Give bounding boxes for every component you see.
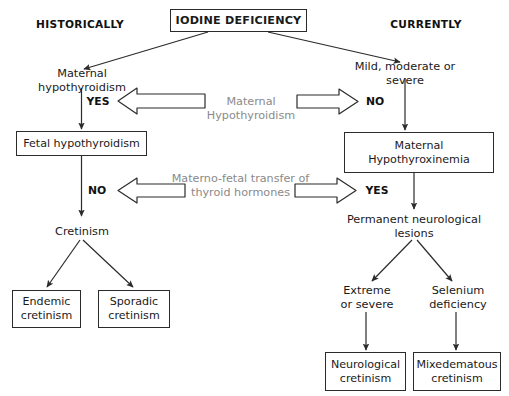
node-sporadic-cretinism[interactable]: Sporadic cretinism [98, 290, 170, 328]
selenium-deficiency-line-2: deficiency [429, 298, 487, 312]
middle-label-row1-line-2: Hypothyroidism [207, 109, 295, 123]
edge-cretinism-to-endemic [47, 240, 80, 287]
flowchart-canvas: HISTORICALLY CURRENTLY IODINE DEFICIENCY… [0, 0, 509, 396]
selenium-deficiency-line-1: Selenium [432, 284, 485, 298]
node-cretinism: Cretinism [46, 224, 118, 239]
node-extreme-or-severe: Extreme or severe [330, 283, 404, 313]
neurological-cretinism-line-2: cretinism [340, 372, 391, 386]
edge-root-to-mild-moderate-severe [268, 32, 400, 62]
endemic-cretinism-line-1: Endemic [23, 295, 71, 309]
extreme-or-severe-line-2: or severe [341, 298, 394, 312]
sporadic-cretinism-line-2: cretinism [108, 309, 159, 323]
mixedematous-cretinism-line-1: Mixedematous [416, 358, 497, 372]
hypothyroxinemia-line-1: Maternal [395, 139, 444, 153]
neurological-cretinism-line-1: Neurological [331, 358, 400, 372]
decision-answer-yes-row2: YES [362, 184, 392, 198]
decision-answer-no-row1: NO [362, 95, 388, 109]
node-iodine-deficiency[interactable]: IODINE DEFICIENCY [170, 9, 307, 32]
node-selenium-deficiency: Selenium deficiency [420, 283, 496, 313]
middle-label-row1-line-1: Maternal [226, 95, 275, 109]
decision-answer-yes-row1: YES [84, 95, 112, 109]
node-neurological-cretinism[interactable]: Neurological cretinism [325, 352, 406, 391]
hypothyroxinemia-line-2: Hypothyroxinemia [368, 153, 470, 167]
block-arrow-right-row1 [297, 89, 358, 114]
middle-label-maternal-hypothyroidism: Maternal Hypothyroidism [205, 93, 297, 125]
edge-root-to-maternal-hypothyroidism [84, 32, 208, 69]
permanent-lesions-line-1: Permanent neurological [347, 213, 481, 227]
sporadic-cretinism-line-1: Sporadic [110, 295, 158, 309]
node-fetal-hypothyroidism[interactable]: Fetal hypothyroidism [16, 131, 147, 156]
edge-cretinism-to-sporadic [83, 240, 133, 287]
mixedematous-cretinism-line-2: cretinism [431, 372, 482, 386]
middle-label-row2-line-2: thyroid hormones [191, 186, 290, 200]
node-endemic-cretinism[interactable]: Endemic cretinism [12, 290, 81, 328]
decision-answer-no-row2: NO [84, 184, 110, 198]
middle-label-materno-fetal-transfer: Materno-fetal transfer of thyroid hormon… [168, 170, 313, 202]
header-currently: CURRENTLY [376, 17, 476, 31]
edge-lesions-to-selenium-deficiency [417, 240, 452, 281]
middle-label-row2-line-1: Materno-fetal transfer of [172, 172, 310, 186]
extreme-or-severe-line-1: Extreme [343, 284, 391, 298]
endemic-cretinism-line-2: cretinism [21, 309, 72, 323]
permanent-lesions-line-2: lesions [394, 227, 433, 241]
header-historically: HISTORICALLY [30, 17, 130, 31]
node-mixedematous-cretinism[interactable]: Mixedematous cretinism [413, 352, 501, 391]
node-permanent-neurological-lesions: Permanent neurological lesions [340, 212, 488, 242]
node-maternal-hypothyroidism: Maternal hypothyroidism [22, 73, 142, 88]
node-maternal-hypothyroxinemia[interactable]: Maternal Hypothyroxinemia [344, 132, 494, 173]
node-mild-moderate-or-severe: Mild, moderate or severe [343, 66, 467, 81]
edge-lesions-to-extreme-or-severe [372, 240, 412, 281]
